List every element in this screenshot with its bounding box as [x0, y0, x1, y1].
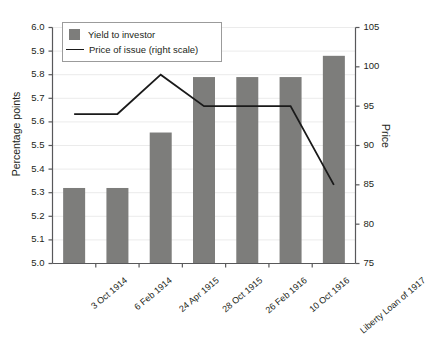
y-tick-label-right: 85 [364, 178, 394, 189]
y-tick-label-left: 5.2 [15, 210, 45, 221]
y-tick-label-left: 5.8 [15, 68, 45, 79]
y-tick-label-left: 5.9 [15, 45, 45, 56]
y-tick-label-right: 105 [364, 21, 394, 32]
legend-label-price: Price of issue (right scale) [89, 44, 198, 55]
bar [323, 56, 345, 264]
legend-line-icon [66, 49, 84, 50]
y-tick-label-right: 80 [364, 218, 394, 229]
y-tick-label-right: 95 [364, 100, 394, 111]
y-tick-label-left: 5.7 [15, 92, 45, 103]
legend-swatch-icon [69, 29, 80, 40]
y-tick-label-right: 75 [364, 257, 394, 268]
bar [63, 188, 85, 264]
y-tick-label-left: 5.4 [15, 163, 45, 174]
y-tick-label-left: 6.0 [15, 21, 45, 32]
legend-item-price: Price of issue (right scale) [69, 42, 213, 57]
legend-item-yield: Yield to investor [69, 27, 213, 42]
y-tick-label-left: 5.5 [15, 139, 45, 150]
bar [280, 77, 302, 263]
y-tick-label-right: 100 [364, 60, 394, 71]
bar [150, 133, 172, 264]
y-tick-label-left: 5.0 [15, 257, 45, 268]
y-tick-label-left: 5.3 [15, 186, 45, 197]
bar [193, 77, 215, 263]
chart-legend: Yield to investor Price of issue (right … [62, 22, 222, 62]
y-tick-label-left: 5.1 [15, 233, 45, 244]
bar [236, 77, 258, 263]
legend-label-yield: Yield to investor [88, 29, 155, 40]
y-tick-label-right: 90 [364, 139, 394, 150]
y-tick-label-left: 5.6 [15, 115, 45, 126]
bar [106, 188, 128, 264]
